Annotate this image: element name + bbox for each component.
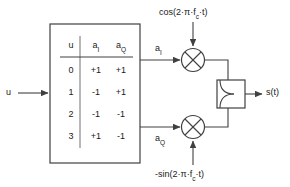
table-header-u: u xyxy=(60,41,82,50)
inphase-branch-label: aI xyxy=(155,44,162,55)
table-row: 1 xyxy=(60,88,82,97)
sin-carrier-label: -sin(2·π·fc·t) xyxy=(155,170,204,181)
table-header-aq: aQ xyxy=(110,41,132,52)
input-label: u xyxy=(6,88,11,97)
table-row: +1 xyxy=(85,66,107,75)
table-row: +1 xyxy=(110,88,132,97)
table-row: 2 xyxy=(60,110,82,119)
table-header-ai: aI xyxy=(85,41,107,52)
inphase-to-combiner-path xyxy=(205,60,229,80)
table-row: -1 xyxy=(85,110,107,119)
cos-carrier-label: cos(2·π·fc·t) xyxy=(159,8,207,19)
qpsk-modulator-diagram: u s(t) u aI aQ 0 +1 +1 1 -1 +1 2 -1 -1 3… xyxy=(0,0,290,187)
table-row: 0 xyxy=(60,66,82,75)
table-row: 3 xyxy=(60,132,82,141)
table-row: -1 xyxy=(110,110,132,119)
quadrature-branch-label: aQ xyxy=(155,134,165,145)
table-row: -1 xyxy=(85,88,107,97)
table-row: +1 xyxy=(85,132,107,141)
diagram-canvas xyxy=(0,0,290,187)
output-label: s(t) xyxy=(266,88,279,97)
table-row: -1 xyxy=(110,132,132,141)
quadrature-to-combiner-path xyxy=(205,108,229,127)
table-row: +1 xyxy=(110,66,132,75)
